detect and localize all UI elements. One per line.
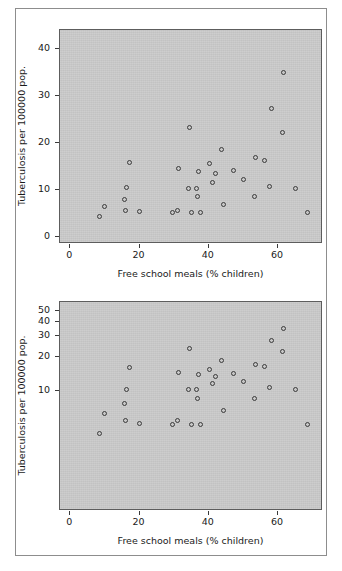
data-point — [189, 422, 194, 427]
y-tick-mark — [55, 236, 59, 237]
plot-texture-log — [60, 302, 321, 509]
x-tick-mark — [139, 511, 140, 515]
x-tick-label: 20 — [119, 517, 159, 527]
chart-panel-log: 10203040500204060 Free school meals (% c… — [0, 270, 342, 571]
figure-container: 0102030400204060 Free school meals (% ch… — [0, 0, 342, 571]
data-point — [186, 387, 191, 392]
data-point — [293, 186, 298, 191]
data-point — [253, 362, 258, 367]
data-point — [221, 202, 226, 207]
y-tick-mark — [55, 310, 59, 311]
data-point — [252, 194, 257, 199]
y-tick-mark — [55, 142, 59, 143]
y-axis-title-log: Tuberculosis per 100000 pop. — [16, 301, 27, 510]
x-tick-mark — [208, 511, 209, 515]
x-tick-mark — [277, 244, 278, 248]
x-tick-mark — [69, 511, 70, 515]
data-point — [189, 210, 194, 215]
data-point — [207, 367, 212, 372]
x-tick-label: 60 — [257, 250, 297, 260]
x-tick-label: 20 — [119, 250, 159, 260]
y-tick-mark — [55, 335, 59, 336]
data-point — [186, 186, 191, 191]
data-point — [176, 370, 181, 375]
data-point — [175, 208, 180, 213]
data-point — [253, 155, 258, 160]
y-tick-mark — [55, 321, 59, 322]
data-point — [293, 387, 298, 392]
y-tick-mark — [55, 390, 59, 391]
x-tick-mark — [277, 511, 278, 515]
data-point — [269, 106, 274, 111]
data-point — [195, 194, 200, 199]
data-point — [213, 374, 218, 379]
data-point — [187, 125, 192, 130]
data-point — [267, 184, 272, 189]
data-point — [176, 166, 181, 171]
chart-panel-linear: 0102030400204060 Free school meals (% ch… — [0, 0, 342, 285]
y-axis-title-linear: Tuberculosis per 100000 pop. — [16, 29, 27, 243]
data-point — [175, 418, 180, 423]
data-point — [221, 408, 226, 413]
data-point — [198, 210, 203, 215]
data-point — [219, 358, 224, 363]
data-point — [122, 197, 127, 202]
data-point — [269, 338, 274, 343]
x-tick-label: 0 — [49, 250, 89, 260]
data-point — [122, 401, 127, 406]
data-point — [187, 346, 192, 351]
y-tick-mark — [55, 95, 59, 96]
y-tick-mark — [55, 189, 59, 190]
x-tick-mark — [139, 244, 140, 248]
x-tick-label: 40 — [188, 250, 228, 260]
plot-area-log — [59, 301, 322, 510]
data-point — [102, 204, 107, 209]
x-tick-label: 60 — [257, 517, 297, 527]
y-tick-mark — [55, 48, 59, 49]
data-point — [241, 379, 246, 384]
data-point — [102, 411, 107, 416]
data-point — [280, 349, 285, 354]
x-tick-label: 0 — [49, 517, 89, 527]
y-tick-mark — [55, 356, 59, 357]
data-point — [281, 326, 286, 331]
data-point — [267, 385, 272, 390]
x-tick-mark — [208, 244, 209, 248]
x-tick-mark — [69, 244, 70, 248]
data-point — [305, 210, 310, 215]
x-tick-label: 40 — [188, 517, 228, 527]
x-axis-title-log: Free school meals (% children) — [59, 535, 322, 546]
